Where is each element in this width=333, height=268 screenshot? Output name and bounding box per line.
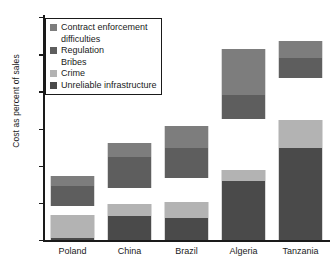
legend-swatch-icon	[50, 82, 57, 89]
legend-item[interactable]: Contract enforcement	[49, 22, 157, 34]
legend-item[interactable]: Regulation	[49, 45, 157, 57]
stacked-bar-chart: Cost as percent of sales 051015202530 Po…	[0, 0, 333, 268]
legend-item[interactable]: Crime	[49, 68, 157, 80]
legend-swatch-icon	[50, 70, 57, 77]
bar-segment-unreliable-infrastructure[interactable]	[164, 218, 209, 240]
bar-segment-contract-enforcement-difficulties[interactable]	[278, 41, 323, 58]
bar-segment-crime[interactable]	[107, 204, 152, 217]
bar-segment-regulation[interactable]	[50, 186, 95, 206]
bar-tanzania[interactable]	[278, 17, 323, 240]
bar-segment-bribes[interactable]	[50, 206, 95, 216]
bar-segment-bribes[interactable]	[107, 188, 152, 204]
bar-segment-contract-enforcement-difficulties[interactable]	[164, 126, 209, 148]
legend-item-label: Contract enforcement	[61, 22, 148, 34]
bar-segment-crime[interactable]	[221, 170, 266, 181]
y-tick-mark	[39, 240, 44, 241]
legend-item-label: Bribes	[61, 57, 87, 69]
bar-segment-crime[interactable]	[278, 120, 323, 148]
bar-algeria[interactable]	[221, 17, 266, 240]
legend-item-label: Regulation	[61, 45, 104, 57]
bar-segment-contract-enforcement-difficulties[interactable]	[221, 49, 266, 95]
legend-item[interactable]: Unreliable infrastructure	[49, 80, 157, 92]
bar-segment-contract-enforcement-difficulties[interactable]	[50, 176, 95, 186]
bar-segment-regulation[interactable]	[278, 58, 323, 78]
legend-swatch-icon	[50, 47, 57, 54]
legend-swatch-icon	[50, 24, 57, 31]
bar-segment-regulation[interactable]	[164, 148, 209, 178]
bar-segment-crime[interactable]	[50, 215, 95, 237]
legend-item[interactable]: Bribes	[49, 57, 157, 69]
chart-legend: Contract enforcementdifficultiesRegulati…	[45, 18, 162, 95]
bar-segment-bribes[interactable]	[278, 78, 323, 120]
bar-segment-crime[interactable]	[164, 202, 209, 218]
bar-segment-unreliable-infrastructure[interactable]	[107, 216, 152, 240]
legend-item-label: Crime	[61, 68, 85, 80]
bar-segment-unreliable-infrastructure[interactable]	[278, 148, 323, 240]
legend-item[interactable]: difficulties	[49, 34, 157, 46]
bar-segment-regulation[interactable]	[221, 95, 266, 119]
bar-segment-regulation[interactable]	[107, 157, 152, 188]
bar-segment-contract-enforcement-difficulties[interactable]	[107, 143, 152, 156]
bar-segment-bribes[interactable]	[221, 119, 266, 170]
bar-segment-bribes[interactable]	[164, 178, 209, 203]
x-tick-label: Tanzania	[266, 246, 333, 256]
x-axis-line	[43, 240, 330, 242]
legend-item-label: Unreliable infrastructure	[61, 80, 157, 92]
bar-segment-unreliable-infrastructure[interactable]	[50, 238, 95, 240]
y-axis-title: Cost as percent of sales	[11, 26, 21, 176]
legend-item-label: difficulties	[61, 34, 100, 46]
bar-segment-unreliable-infrastructure[interactable]	[221, 181, 266, 240]
bar-brazil[interactable]	[164, 17, 209, 240]
